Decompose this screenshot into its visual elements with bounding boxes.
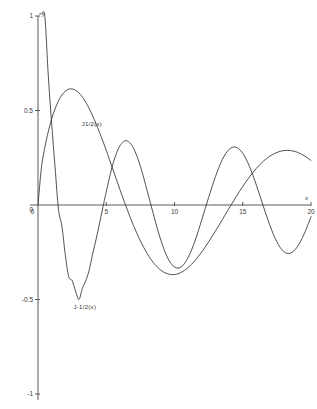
x-tick-label: 10 (171, 208, 179, 215)
series-label-j-minus-half: J-1/2(x) (73, 304, 96, 310)
x-axis-label: x (304, 194, 309, 202)
x-tick-label: 20 (307, 208, 315, 215)
x-axis-tick-labels: 05101520 (30, 208, 315, 215)
y-tick-label-zero: 0 (29, 206, 33, 213)
curve-j-half (38, 89, 311, 275)
y-tick-label: -1 (27, 390, 33, 397)
x-tick-label: 5 (104, 208, 108, 215)
y-tick-label: 0.5 (24, 107, 33, 114)
y-tick-label: -0.5 (22, 296, 34, 303)
bessel-function-plot: 05101520 -1-0.50.510 y x J1/2(x) J-1/2(x… (0, 0, 317, 409)
x-tick-label: 15 (239, 208, 247, 215)
plot-svg: 05101520 -1-0.50.510 y x J1/2(x) J-1/2(x… (0, 0, 317, 409)
series-label-j-half: J1/2(x) (82, 121, 102, 127)
y-tick-label: 1 (29, 12, 33, 19)
